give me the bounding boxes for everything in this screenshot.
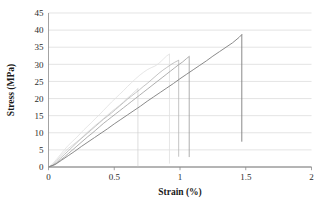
y-tick-label-30: 30 [35,60,45,70]
y-tick-label-0: 0 [39,162,44,172]
y-tick-label-45: 45 [35,8,45,18]
x-tick-label-0.5: 0.5 [109,172,121,182]
x-tick-label-0: 0 [46,172,51,182]
y-tick-label-25: 25 [35,77,45,87]
x-tick-label-1.5: 1.5 [240,172,252,182]
y-axis-title: Stress (MPa) [6,64,17,116]
plot-background [49,13,312,167]
y-tick-label-40: 40 [35,25,45,35]
x-axis-tick-labels: 00.511.52 [46,172,314,182]
y-tick-label-35: 35 [35,42,45,52]
y-tick-label-5: 5 [39,145,44,155]
y-tick-label-10: 10 [35,128,45,138]
x-tick-label-2: 2 [309,172,314,182]
y-tick-label-15: 15 [35,111,45,121]
chart-canvas: 051015202530354045 00.511.52 Strain (%) … [0,0,333,202]
x-axis-ticks [49,167,312,170]
y-tick-label-20: 20 [35,94,45,104]
stress-strain-chart: 051015202530354045 00.511.52 Strain (%) … [0,0,333,202]
y-axis-tick-labels: 051015202530354045 [35,8,45,172]
x-axis-title: Strain (%) [158,187,202,198]
x-tick-label-1: 1 [178,172,183,182]
